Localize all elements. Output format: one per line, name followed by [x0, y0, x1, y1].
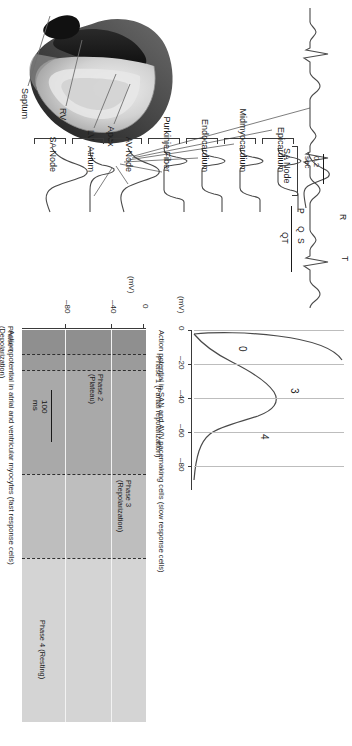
ytick-minus20: –20	[177, 356, 186, 369]
phase-label-2: Phase 2 (Plateau)	[88, 374, 104, 404]
caption-fast-response: Action potential in atrial and ventricul…	[7, 330, 16, 746]
cell-label-midmyocardium: Midmyocardium	[238, 76, 248, 172]
scalebar-100ms-label: 100 ms	[31, 400, 49, 413]
ecg-label-qt: QT	[280, 232, 290, 244]
phase-label-0-line2: (Depolarization)	[0, 326, 7, 378]
phase-annotation-4: 4	[259, 434, 271, 440]
ytick-fast-minus40: –40	[109, 300, 118, 313]
phase-label-2-line1: Phase 2	[96, 374, 105, 401]
ytick-fast-0: 0	[141, 304, 150, 308]
slow-response-curve	[192, 330, 344, 510]
ytick-minus80: –80	[177, 458, 186, 471]
cell-label-sa-node: SA Node	[48, 76, 58, 172]
ecg-label-s: S	[296, 238, 306, 244]
ytick-minus60: –60	[177, 424, 186, 437]
ecg-label-p: P	[296, 208, 306, 214]
ytick-fast-minus80: –80	[63, 300, 72, 313]
cell-label-epicardium: Epicardium	[276, 76, 286, 172]
phase-annotation-3: 3	[289, 388, 301, 394]
ecg-label-t: T	[340, 256, 350, 261]
ecg-label-r: R	[338, 214, 348, 220]
figure-canvas: Septum RV LV Apex SA Node	[0, 0, 352, 746]
chart-slow-response: 0 3 4 0 –20 –40 –60 –80 (mV)	[168, 330, 344, 510]
phase-annotation-0: 0	[237, 346, 249, 352]
ecg-timescale-label: 0.2 sec	[303, 156, 321, 168]
ytick-minus40: –40	[177, 390, 186, 403]
phase-label-2-line2: (Plateau)	[88, 374, 97, 404]
yaxis-unit-bottom: (mV)	[127, 276, 136, 293]
cell-label-purkinje-fiber: Purkinje Fiber	[162, 76, 172, 172]
phase-label-3-line1: Phase 3	[124, 480, 133, 507]
phase-label-3-line2: (Repolarization)	[116, 480, 125, 532]
band-phase-1	[22, 354, 146, 370]
yaxis-unit-top: (mV)	[177, 296, 186, 313]
cell-label-atrium: Atrium	[86, 76, 96, 172]
band-phase-0	[22, 330, 146, 354]
phase-label-1: Phase 1 (Partial repolarization)	[154, 356, 162, 457]
cell-label-endocardium: Endocardium	[200, 76, 210, 172]
ecg-label-q: Q	[296, 226, 306, 233]
chart-fast-response: Phase 2 (Plateau) Phase 3 (Repolarizatio…	[22, 330, 146, 722]
phase-label-3: Phase 3 (Repolarization)	[116, 480, 132, 532]
cell-label-av-node: AV Node	[124, 76, 134, 172]
band-phase-2	[22, 370, 146, 474]
ytick-0: 0	[177, 326, 186, 330]
phase-label-4: Phase 4 (Resting)	[38, 620, 46, 679]
